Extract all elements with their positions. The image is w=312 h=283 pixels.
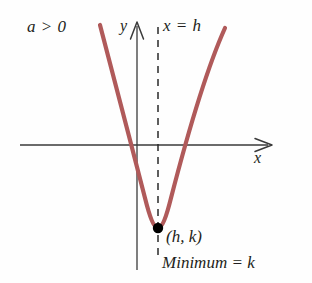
vertex-coordinates-label: (h, k) bbox=[166, 228, 202, 245]
minimum-value-label: Minimum = k bbox=[162, 254, 255, 271]
axis-of-symmetry-label: x = h bbox=[163, 17, 202, 34]
x-axis bbox=[20, 139, 272, 152]
parabola-figure: a > 0 y x x = h (h, k) Minimum = k bbox=[0, 0, 312, 283]
parabola-curve bbox=[100, 25, 225, 228]
x-axis-label: x bbox=[254, 150, 261, 166]
parabola-graph-svg bbox=[0, 0, 312, 283]
vertex-point-marker bbox=[153, 223, 163, 233]
y-axis-label: y bbox=[120, 18, 127, 34]
coefficient-condition-label: a > 0 bbox=[27, 18, 66, 35]
